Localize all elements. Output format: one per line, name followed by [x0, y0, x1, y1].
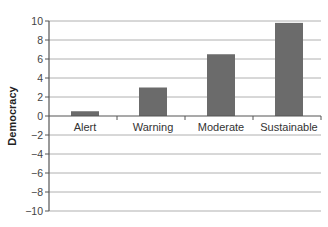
y-tick-label: 0 [37, 110, 43, 122]
y-tick-label: 10 [31, 15, 43, 27]
y-axis-ticks: 1086420−2−4−6−8−10 [25, 15, 49, 217]
y-tick-label: 4 [37, 72, 43, 84]
bar-moderate [207, 54, 235, 116]
bars [71, 23, 303, 116]
x-axis-categories: AlertWarningModerateSustainable [74, 121, 318, 133]
y-tick-label: −4 [31, 148, 43, 160]
y-tick-label: 8 [37, 34, 43, 46]
bar-chart: 1086420−2−4−6−8−10 AlertWarningModerateS… [0, 0, 328, 227]
y-tick-label: 6 [37, 53, 43, 65]
bar-sustainable [275, 23, 303, 116]
category-label: Warning [133, 121, 174, 133]
category-label: Sustainable [260, 121, 318, 133]
y-axis-label: Democracy [6, 85, 18, 145]
y-tick-label: −2 [31, 129, 43, 141]
bar-warning [139, 88, 167, 117]
y-tick-label: −6 [31, 167, 43, 179]
category-label: Moderate [198, 121, 244, 133]
category-label: Alert [74, 121, 97, 133]
bar-alert [71, 111, 99, 116]
y-tick-label: −10 [25, 205, 43, 217]
y-tick-label: 2 [37, 91, 43, 103]
y-tick-label: −8 [31, 186, 43, 198]
